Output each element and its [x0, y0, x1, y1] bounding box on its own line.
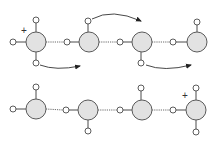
water-molecule	[170, 19, 207, 52]
water-molecule	[10, 84, 46, 119]
water-molecule	[63, 100, 98, 134]
hydrogen-atom	[64, 39, 70, 45]
hydrogen-atom	[85, 18, 91, 24]
hydrogen-atom	[170, 107, 176, 113]
top-row: +	[10, 14, 207, 69]
hydrogen-atom	[10, 39, 16, 45]
hydronium-molecule: +	[10, 17, 46, 66]
hydrogen-atom	[33, 60, 39, 66]
hydrogen-bond	[46, 109, 63, 110]
oxygen-atom	[132, 32, 152, 52]
bottom-row: +	[10, 84, 206, 135]
hydrogen-atom	[117, 39, 123, 45]
positive-charge-icon: +	[182, 90, 188, 101]
positive-charge-icon: +	[21, 25, 27, 36]
proton-hopping-diagram: +	[0, 0, 213, 144]
hydrogen-atom	[85, 128, 91, 134]
water-molecule	[117, 85, 152, 120]
hydrogen-atom	[170, 39, 176, 45]
oxygen-atom	[26, 32, 46, 52]
oxygen-atom	[79, 32, 99, 52]
oxygen-atom	[78, 100, 98, 120]
hydrogen-atom	[138, 60, 144, 66]
hydrogen-atom	[138, 85, 144, 91]
water-molecule	[64, 18, 99, 52]
hydrogen-atom	[117, 107, 123, 113]
hydrogen-atom	[193, 129, 199, 135]
arrow-1-icon	[40, 65, 80, 68]
hydrogen-atom	[194, 19, 200, 25]
hydrogen-atom	[33, 84, 39, 90]
hydrogen-atom	[10, 106, 16, 112]
hydronium-molecule: +	[170, 85, 206, 135]
arrow-2-icon	[92, 14, 141, 21]
hydrogen-atom	[193, 85, 199, 91]
oxygen-atom	[132, 100, 152, 120]
arrow-3-icon	[146, 65, 191, 69]
hydrogen-atom	[63, 107, 69, 113]
hydrogen-atom	[33, 17, 39, 23]
oxygen-atom	[26, 99, 46, 119]
water-molecule	[117, 32, 152, 66]
oxygen-atom	[187, 32, 207, 52]
oxygen-atom	[186, 100, 206, 120]
